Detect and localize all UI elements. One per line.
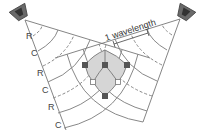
label-r: R <box>37 68 44 78</box>
label-c: C <box>42 85 49 95</box>
label-c: C <box>31 48 38 58</box>
dark-node <box>102 62 108 68</box>
light-node <box>116 80 121 85</box>
label-c: C <box>55 120 62 130</box>
label-r: R <box>48 102 55 112</box>
dark-node <box>82 62 88 68</box>
dark-node <box>124 62 130 68</box>
light-node <box>91 80 96 85</box>
dark-node <box>102 93 108 99</box>
diagram-canvas: 1 wavelength R C R C R C <box>0 0 203 138</box>
interference-region <box>85 50 127 96</box>
label-r: R <box>26 31 33 41</box>
interference-diagram: 1 wavelength R C R C R C <box>0 0 203 138</box>
wavelength-annotation: 1 wavelength <box>104 17 158 47</box>
left-speaker-icon <box>9 3 31 22</box>
